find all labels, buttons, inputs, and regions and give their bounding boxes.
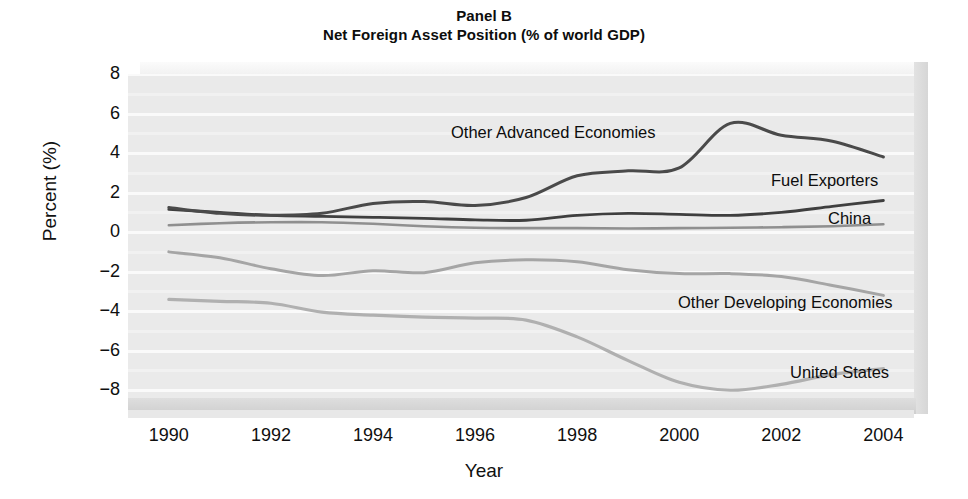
- x-tick-label: 2002: [746, 425, 816, 446]
- x-tick-label: 1994: [338, 425, 408, 446]
- x-tick-label: 2004: [848, 425, 918, 446]
- series-line-other-developing-economies: [169, 252, 884, 295]
- plot-floor-front: [128, 410, 914, 418]
- series-annotation: China: [828, 210, 871, 226]
- x-axis-ticks: 19901992199419961998200020022004: [0, 425, 968, 455]
- series-annotation: Fuel Exporters: [771, 172, 878, 188]
- y-tick-label: 6: [60, 104, 120, 122]
- y-tick-label: 4: [60, 143, 120, 161]
- y-tick-label: −4: [60, 301, 120, 319]
- series-annotation: Other Advanced Economies: [451, 124, 656, 140]
- chart-subtitle: Net Foreign Asset Position (% of world G…: [0, 25, 968, 44]
- y-tick-label: −8: [60, 380, 120, 398]
- chart-root: Panel B Net Foreign Asset Position (% of…: [0, 0, 968, 499]
- y-tick-label: 2: [60, 183, 120, 201]
- chart-title-block: Panel B Net Foreign Asset Position (% of…: [0, 6, 968, 44]
- y-tick-label: 8: [60, 64, 120, 82]
- chart-title: Panel B: [0, 6, 968, 25]
- series-annotation: Other Developing Economies: [678, 294, 893, 310]
- series-annotation: United States: [790, 364, 889, 380]
- y-tick-label: −6: [60, 341, 120, 359]
- x-tick-label: 1996: [440, 425, 510, 446]
- plot-right-wall: [914, 62, 928, 414]
- plot-top-cap: [140, 62, 928, 74]
- x-axis-label: Year: [0, 460, 968, 482]
- x-tick-label: 1992: [236, 425, 306, 446]
- series-line-china: [169, 222, 884, 228]
- y-tick-label: −2: [60, 262, 120, 280]
- series-line-united-states: [169, 299, 884, 390]
- x-tick-label: 1990: [134, 425, 204, 446]
- series-line-fuel-exporters: [169, 200, 884, 220]
- y-tick-label: 0: [60, 222, 120, 240]
- x-tick-label: 1998: [542, 425, 612, 446]
- x-tick-label: 2000: [644, 425, 714, 446]
